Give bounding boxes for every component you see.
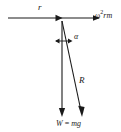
angle-left-arrowhead-icon	[55, 39, 60, 44]
centripetal-force-label: ω2rm	[95, 9, 112, 20]
angle-right-arrowhead-icon	[68, 39, 73, 44]
weight-value: mg	[71, 119, 81, 128]
resultant-label: R	[79, 76, 85, 85]
weight-symbol: W	[56, 119, 63, 128]
weight-arrowhead-icon	[59, 108, 65, 117]
radius-mid-arrowhead-icon	[56, 15, 63, 21]
weight-label: W = mg	[56, 120, 81, 128]
angle-label: α	[74, 33, 78, 41]
resultant-arrowhead-icon	[78, 106, 84, 117]
radius-label: r	[38, 3, 42, 12]
weight-equals-sign: =	[63, 119, 72, 128]
centripetal-suffix: rm	[103, 11, 112, 20]
force-diagram-canvas	[0, 0, 121, 132]
force-diagram: r ω2rm α R W = mg	[0, 0, 121, 132]
